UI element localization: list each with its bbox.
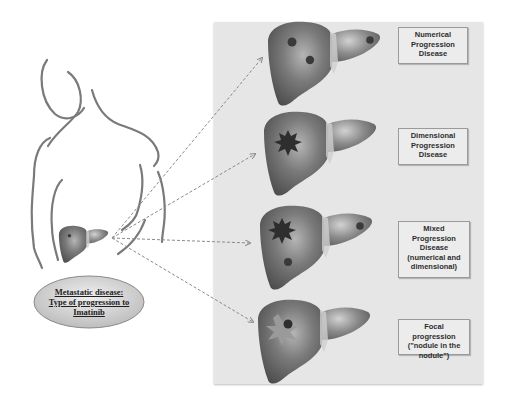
label-line: (numerical and: [402, 253, 466, 263]
liver-dimensional-icon: [264, 112, 376, 196]
arrow-to-numerical: [112, 58, 262, 238]
label-line: Progression: [402, 40, 464, 50]
label-line: Imatinib: [73, 307, 105, 317]
label-line: Mixed: [402, 224, 466, 234]
label-line: Progression: [402, 234, 466, 244]
label-line: nodule"): [402, 351, 466, 361]
focal-progression-label: Focal progression ("nodule in the nodule…: [398, 319, 470, 355]
label-line: ("nodule in the: [402, 341, 466, 351]
label-line: Dimensional: [402, 131, 464, 141]
liver-numerical-icon: [268, 22, 380, 106]
metastatic-disease-label: Metastatic disease: Type of progression …: [34, 276, 144, 328]
label-line: Metastatic disease:: [55, 287, 124, 297]
label-line: Numerical: [402, 30, 464, 40]
arrow-to-dimensional: [112, 154, 255, 238]
label-line: Focal progression: [402, 322, 466, 341]
liver-focal-icon: [258, 300, 370, 384]
liver-mixed-icon: [260, 206, 372, 290]
label-line: Disease: [402, 243, 466, 253]
label-line: Type of progression to: [49, 297, 130, 307]
label-line: Progression: [402, 141, 464, 151]
numerical-progression-label: Numerical Progression Disease: [398, 27, 468, 64]
label-line: dimensional): [402, 262, 466, 272]
label-line: Disease: [402, 150, 464, 160]
mixed-progression-label: Mixed Progression Disease (numerical and…: [398, 221, 470, 278]
dimensional-progression-label: Dimensional Progression Disease: [398, 128, 468, 165]
source-liver-icon: [59, 226, 108, 263]
label-line: Disease: [402, 49, 464, 59]
